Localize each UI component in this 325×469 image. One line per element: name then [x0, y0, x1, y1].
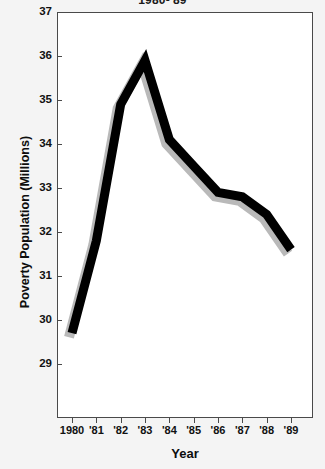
x-axis-tick-mark	[242, 418, 243, 423]
x-axis-tick-mark	[145, 418, 146, 423]
data-line-svg	[57, 12, 313, 418]
x-axis-tick-label: '84	[162, 424, 177, 436]
x-axis-tick-label: 1980	[60, 424, 84, 436]
y-axis-tick-label: 29	[26, 358, 52, 370]
x-axis-tick-label: '82	[113, 424, 128, 436]
x-axis-tick-mark	[218, 418, 219, 423]
x-axis-tick-label: '89	[284, 424, 299, 436]
x-axis-tick-label: '88	[259, 424, 274, 436]
x-axis-tick-mark	[72, 418, 73, 423]
x-axis-title: Year	[57, 446, 313, 461]
x-axis-tick-mark	[291, 418, 292, 423]
x-axis-tick-label: '87	[235, 424, 250, 436]
data-line-poverty-population	[72, 60, 291, 333]
x-axis-tick-label: '81	[89, 424, 104, 436]
y-axis-tick-label: 37	[26, 6, 52, 18]
x-axis-tick-label: '85	[186, 424, 201, 436]
x-axis-tick-mark	[121, 418, 122, 423]
x-axis-tick-label: '86	[211, 424, 226, 436]
x-axis-tick-mark	[96, 418, 97, 423]
x-axis-tick-mark	[169, 418, 170, 423]
poverty-population-line-chart: 1980-'89 373635343332313029 Poverty Popu…	[0, 0, 325, 469]
x-axis-tick-mark	[194, 418, 195, 423]
y-axis-tick-label: 36	[26, 50, 52, 62]
y-axis-title: Poverty Population (Millions)	[18, 102, 32, 342]
x-axis-tick-mark	[267, 418, 268, 423]
x-axis-tick-label: '83	[138, 424, 153, 436]
